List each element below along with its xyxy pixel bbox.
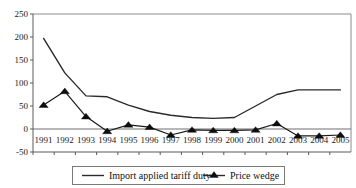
y-tick-label: 150 bbox=[15, 55, 29, 65]
y-axis-ticks: -50050100150200250 bbox=[15, 9, 34, 157]
x-tick-label: 1998 bbox=[183, 135, 202, 145]
x-tick-label: 1995 bbox=[119, 135, 138, 145]
x-tick-label: 2001 bbox=[247, 135, 265, 145]
y-tick-label: -50 bbox=[16, 147, 28, 157]
legend-label-price-wedge: Price wedge bbox=[230, 170, 280, 181]
price-wedge-data-point bbox=[272, 120, 281, 126]
x-tick-label: 1993 bbox=[77, 135, 96, 145]
price-wedge-data-point bbox=[60, 88, 69, 94]
y-tick-label: 250 bbox=[15, 9, 29, 19]
x-tick-label: 1992 bbox=[56, 135, 74, 145]
x-tick-label: 2000 bbox=[225, 135, 244, 145]
x-tick-label: 1991 bbox=[35, 135, 53, 145]
y-tick-label: 50 bbox=[19, 101, 29, 111]
y-tick-label: 0 bbox=[24, 124, 29, 134]
x-tick-label: 1999 bbox=[204, 135, 223, 145]
legend-label-tariff: Import applied tariff duty bbox=[109, 170, 211, 181]
y-tick-label: 200 bbox=[15, 32, 29, 42]
price-wedge-data-point bbox=[81, 113, 90, 119]
chart-container: -50050100150200250 199119921993199419951… bbox=[0, 0, 356, 188]
x-tick-label: 2002 bbox=[268, 135, 286, 145]
chart-legend: Import applied tariff duty Price wedge bbox=[73, 167, 285, 185]
series-group bbox=[39, 38, 345, 138]
x-tick-label: 1996 bbox=[141, 135, 160, 145]
price-wedge-data-point bbox=[124, 122, 133, 128]
y-tick-label: 100 bbox=[15, 78, 29, 88]
series-line-import-applied-tariff-duty bbox=[44, 38, 341, 118]
x-tick-label: 1994 bbox=[98, 135, 117, 145]
line-chart: -50050100150200250 199119921993199419951… bbox=[0, 0, 356, 188]
